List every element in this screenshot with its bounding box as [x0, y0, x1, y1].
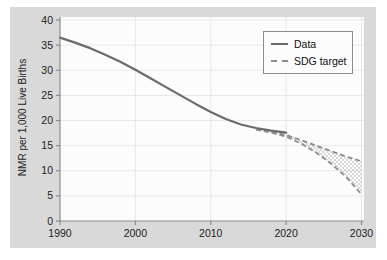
y-tick-label: 0 [47, 215, 53, 227]
figure-panel: 199020002010202020300510152025303540 NMR… [10, 7, 376, 248]
x-tick-label: 2010 [199, 227, 223, 239]
legend-label-sdg-target: SDG target [294, 55, 347, 67]
x-tick-label: 2020 [274, 227, 298, 239]
y-tick-label: 15 [41, 139, 53, 151]
legend-label-data: Data [294, 38, 316, 50]
y-tick-label: 35 [41, 39, 53, 51]
sdg-target-line-swatch [271, 60, 288, 62]
legend: Data SDG target [263, 31, 353, 74]
x-tick-label: 1990 [48, 227, 72, 239]
y-axis-title: NMR per 1,000 Live Births [17, 38, 30, 198]
y-tick-label: 40 [41, 14, 53, 26]
y-tick-label: 5 [47, 189, 53, 201]
legend-item-sdg-target: SDG target [271, 55, 345, 67]
y-tick-label: 10 [41, 164, 53, 176]
y-tick-label: 20 [41, 114, 53, 126]
x-tick-label: 2000 [124, 227, 148, 239]
y-tick-label: 25 [41, 89, 53, 101]
x-tick-label: 2030 [350, 227, 374, 239]
page: 199020002010202020300510152025303540 NMR… [0, 0, 387, 260]
y-tick-label: 30 [41, 64, 53, 76]
data-line-swatch [271, 43, 288, 45]
legend-item-data: Data [271, 38, 345, 50]
